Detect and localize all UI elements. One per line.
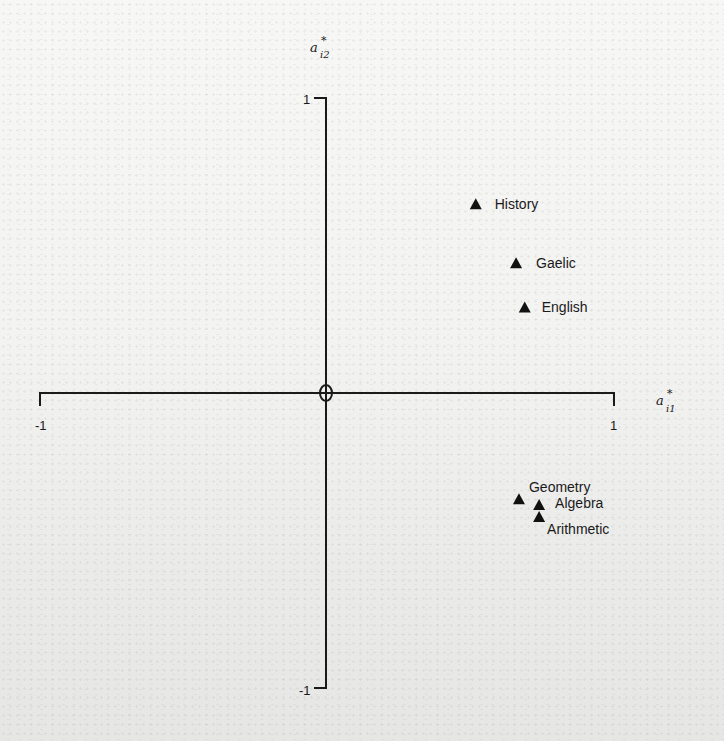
triangle-marker-icon: [470, 198, 482, 209]
point-label: Gaelic: [536, 255, 576, 271]
data-points: HistoryGaelicEnglishGeometryAlgebraArith…: [470, 196, 610, 537]
y-axis-title-base: a: [310, 40, 318, 55]
factor-loading-plot: -1 1 1 -1 a * i2 a * i1 HistoryGaelicEng…: [0, 0, 724, 741]
x-axis-title: a * i1: [656, 387, 676, 414]
triangle-marker-icon: [513, 493, 525, 504]
data-point-algebra: Algebra: [533, 495, 603, 511]
point-label: Arithmetic: [547, 521, 609, 537]
triangle-marker-icon: [510, 257, 522, 268]
x-tick-min: -1: [35, 418, 47, 433]
point-label: Algebra: [555, 495, 603, 511]
triangle-marker-icon: [519, 301, 531, 312]
x-axis-title-base: a: [656, 393, 664, 408]
triangle-marker-icon: [533, 499, 545, 510]
x-axis-title-sub: i1: [666, 403, 676, 414]
x-axis-title-sup: *: [667, 387, 673, 400]
point-label: Geometry: [529, 479, 590, 495]
data-point-english: English: [519, 299, 588, 315]
y-axis-title-sup: *: [321, 34, 327, 47]
triangle-marker-icon: [533, 511, 545, 522]
point-label: English: [542, 299, 588, 315]
y-tick-min: -1: [299, 683, 311, 698]
y-axis-title: a * i2: [310, 34, 330, 60]
data-point-gaelic: Gaelic: [510, 255, 576, 271]
x-tick-max: 1: [610, 418, 617, 433]
y-axis-title-sub: i2: [320, 49, 330, 60]
y-tick-max: 1: [303, 92, 310, 107]
data-point-arithmetic: Arithmetic: [533, 511, 609, 537]
data-point-history: History: [470, 196, 539, 212]
point-label: History: [495, 196, 539, 212]
